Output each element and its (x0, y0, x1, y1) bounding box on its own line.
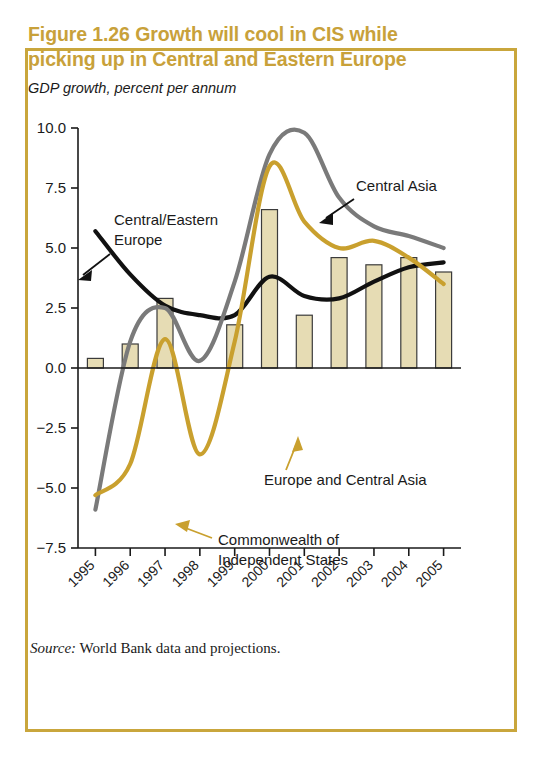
bar (87, 358, 103, 368)
bar (331, 258, 347, 368)
x-axis-tick-label: 2005 (412, 557, 445, 590)
bar (401, 258, 417, 368)
annotation-arrow-cee-head (78, 270, 92, 281)
annotation-arrow-cee-shaft (83, 254, 110, 275)
annotation-central-asia: Central Asia (356, 177, 438, 194)
y-axis-tick-label: 7.5 (45, 179, 66, 196)
source-label: Source: (30, 640, 76, 656)
annotation-arrow-eca-head (292, 436, 303, 452)
y-axis-tick-label: −7.5 (36, 539, 66, 556)
annotation-cis-line1: Commonwealth of (218, 531, 340, 548)
annotation-europe-and-central-asia: Europe and Central Asia (264, 471, 427, 488)
x-axis-tick-label: 1997 (134, 557, 167, 590)
x-axis-tick-label: 2004 (378, 557, 411, 590)
annotation-arrow-cis-head (175, 520, 190, 532)
annotation-arrow-central-asia-head (319, 213, 333, 225)
y-axis-tick-label: 2.5 (45, 299, 66, 316)
bar (436, 272, 452, 368)
source-text: World Bank data and projections. (76, 640, 280, 656)
chart-plot-area: 10.07.55.02.50.0−2.5−5.0−7.5 19951996199… (6, 108, 486, 628)
x-axis-tick-label: 1998 (169, 557, 202, 590)
annotation-central-eastern-europe-line2: Europe (114, 231, 162, 248)
chart-svg: 10.07.55.02.50.0−2.5−5.0−7.5 19951996199… (6, 108, 486, 628)
chart-annotations: Central/Eastern Europe Central Asia Euro… (78, 177, 438, 568)
y-axis-tick-label: 10.0 (37, 119, 66, 136)
figure-title: Figure 1.26 Growth will cool in CIS whil… (28, 22, 468, 72)
y-axis-tick-labels: 10.07.55.02.50.0−2.5−5.0−7.5 (36, 119, 66, 556)
source-note: Source: World Bank data and projections. (30, 640, 470, 657)
y-axis-tick-label: 5.0 (45, 239, 66, 256)
figure-subtitle: GDP growth, percent per annum (28, 80, 468, 96)
y-axis-tick-label: 0.0 (45, 359, 66, 376)
annotation-central-eastern-europe-line1: Central/Eastern (114, 211, 218, 228)
y-axis-tick-label: −5.0 (36, 479, 66, 496)
bar (262, 210, 278, 368)
y-axis-tick-label: −2.5 (36, 419, 66, 436)
annotation-cis-line2: Independent States (218, 551, 348, 568)
x-axis-tick-label: 1996 (99, 557, 132, 590)
bar (296, 315, 312, 368)
x-axis-tick-label: 1995 (64, 557, 97, 590)
